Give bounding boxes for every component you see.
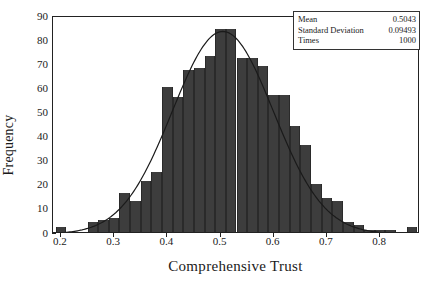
legend-row-value: 0.5043 [393, 14, 416, 25]
y-axis-tick-label: 20 [4, 179, 48, 190]
normal-curve-path [53, 31, 418, 232]
legend-row-key: Mean [298, 14, 321, 25]
x-axis-tick-label: 0.4 [159, 236, 173, 247]
x-axis-tick-label: 0.3 [106, 236, 120, 247]
y-axis-tick-label: 70 [4, 59, 48, 70]
y-axis-tick-label: 10 [4, 203, 48, 214]
legend-row-key: Standard Deviation [298, 25, 368, 36]
y-axis-tick-label: 90 [4, 11, 48, 22]
y-axis-tick-label: 80 [4, 35, 48, 46]
y-axis-tick-label: 50 [4, 107, 48, 118]
statistics-legend-box: Mean0.5043Standard Deviation0.09493Times… [293, 11, 420, 50]
x-axis-tick-label: 0.6 [266, 236, 280, 247]
x-axis-tick-label: 0.7 [319, 236, 333, 247]
y-axis-tick-label: 60 [4, 83, 48, 94]
histogram-figure: Frequency 0102030405060708090 0.20.30.40… [0, 0, 429, 290]
x-axis-tick-label: 0.2 [53, 236, 67, 247]
x-axis-tick-label: 0.5 [213, 236, 227, 247]
legend-row: Times1000 [298, 35, 416, 46]
x-axis-title: Comprehensive Trust [52, 258, 419, 275]
legend-row-value: 1000 [399, 35, 416, 46]
y-axis-tick-label: 40 [4, 131, 48, 142]
x-axis-tick-label: 0.8 [372, 236, 386, 247]
y-axis-tick-label: 30 [4, 155, 48, 166]
legend-row: Standard Deviation0.09493 [298, 25, 416, 36]
legend-row-key: Times [298, 35, 323, 46]
legend-row-value: 0.09493 [388, 25, 416, 36]
legend-row: Mean0.5043 [298, 14, 416, 25]
x-axis-tick-labels: 0.20.30.40.50.60.70.8 [0, 236, 429, 254]
